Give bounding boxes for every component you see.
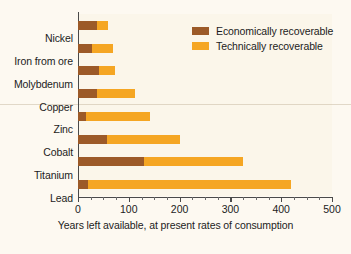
bar-zinc [78,112,150,121]
x-tick-minor [91,197,92,200]
x-tick-minor [294,197,295,200]
x-tick-label: 500 [323,203,341,215]
x-tick-minor [269,197,270,200]
category-label: Molybdenum [0,78,73,90]
bar-segment-technically-recoverable [107,135,180,144]
bar-segment-economically-recoverable [78,180,88,189]
bar-segment-economically-recoverable [78,135,107,144]
bar-segment-economically-recoverable [78,89,97,98]
bar-titanium [78,157,243,166]
bar-segment-technically-recoverable [99,66,115,75]
x-tick-major [129,197,130,202]
x-tick-major [78,197,79,202]
x-tick-minor [142,197,143,200]
bar-segment-economically-recoverable [78,21,97,30]
x-tick-minor [205,197,206,200]
category-label: Lead [0,192,73,204]
x-tick-minor [319,197,320,200]
bar-segment-technically-recoverable [97,89,135,98]
bar-segment-technically-recoverable [97,21,108,30]
category-label: Iron from ore [0,55,73,67]
bar-cobalt [78,135,180,144]
legend-item-economically-recoverable: Economically recoverable [192,24,333,37]
x-tick-major [230,197,231,202]
bar-segment-economically-recoverable [78,44,92,53]
bar-segment-economically-recoverable [78,66,99,75]
bar-nickel [78,21,108,30]
category-axis-labels: NickelIron from oreMolybdenumCopperZincC… [0,14,73,196]
x-tick-minor [192,197,193,200]
x-tick-label: 400 [272,203,290,215]
legend-item-technically-recoverable: Technically recoverable [192,39,333,52]
bar-iron-from-ore [78,44,113,53]
bar-segment-technically-recoverable [88,180,291,189]
x-tick-minor [167,197,168,200]
category-label: Copper [0,101,73,113]
bar-copper [78,89,135,98]
category-label: Nickel [0,32,73,44]
category-label: Zinc [0,123,73,135]
legend-swatch-icon [192,27,209,35]
bar-lead [78,180,291,189]
bar-segment-economically-recoverable [78,157,144,166]
x-tick-minor [256,197,257,200]
x-tick-minor [154,197,155,200]
bar-segment-economically-recoverable [78,112,86,121]
x-tick-label: 100 [120,203,138,215]
bar-segment-technically-recoverable [144,157,243,166]
bar-segment-technically-recoverable [86,112,150,121]
x-tick-major [281,197,282,202]
x-tick-minor [116,197,117,200]
y-axis-line [78,12,79,198]
category-label: Titanium [0,169,73,181]
chart-legend: Economically recoverable Technically rec… [192,24,333,54]
legend-swatch-icon [192,42,209,50]
x-tick-label: 200 [171,203,189,215]
x-tick-major [332,197,333,202]
x-tick-minor [218,197,219,200]
legend-label: Technically recoverable [216,40,323,52]
x-tick-minor [307,197,308,200]
bar-molybdenum [78,66,115,75]
x-tick-label: 300 [222,203,240,215]
x-tick-minor [103,197,104,200]
x-tick-major [180,197,181,202]
x-tick-minor [243,197,244,200]
bar-segment-technically-recoverable [92,44,113,53]
category-label: Cobalt [0,146,73,158]
legend-label: Economically recoverable [216,25,333,37]
chart-container: NickelIron from oreMolybdenumCopperZincC… [0,0,351,254]
x-tick-label: 0 [75,203,81,215]
x-axis-title: Years left available, at present rates o… [0,219,351,231]
